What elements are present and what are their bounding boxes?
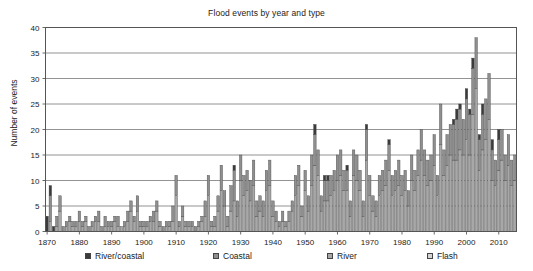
- legend-item[interactable]: Coastal: [213, 251, 252, 261]
- bar-segment: [220, 191, 223, 232]
- bar-segment: [72, 226, 75, 231]
- x-tick-label: 1900: [135, 238, 153, 247]
- bar-segment: [136, 211, 139, 231]
- bar-segment: [304, 191, 307, 232]
- bar-segment: [265, 191, 268, 232]
- bar-segment: [394, 191, 397, 232]
- bar-segment: [504, 155, 507, 181]
- bar-segment: [191, 221, 194, 226]
- bar-segment: [104, 226, 107, 231]
- bar-segment: [391, 175, 394, 195]
- y-tick-label: 15: [31, 151, 40, 160]
- bar-segment: [472, 68, 475, 114]
- bar-segment: [368, 196, 371, 232]
- legend-item[interactable]: Flash: [427, 251, 458, 261]
- bar-segment: [78, 221, 81, 231]
- bar-segment: [323, 201, 326, 232]
- x-tick-label: 1920: [200, 238, 218, 247]
- bar-segment: [127, 211, 130, 221]
- bar-segment: [301, 216, 304, 231]
- legend-swatch-icon: [85, 253, 91, 259]
- bar-segment: [88, 226, 91, 231]
- bar-segment: [172, 206, 175, 221]
- bar-segment: [397, 186, 400, 232]
- bar-segment: [456, 160, 459, 231]
- bar-segment: [143, 226, 146, 231]
- bar-segment: [201, 216, 204, 221]
- bar-segment: [388, 170, 391, 231]
- bar-segment: [133, 221, 136, 231]
- bar-segment: [459, 109, 462, 150]
- x-axis-ticks: 1870188018901900191019201930194019501960…: [38, 232, 508, 247]
- bar-segment: [97, 221, 100, 231]
- bar-segment: [420, 130, 423, 161]
- legend-swatch-icon: [327, 253, 333, 259]
- legend-item[interactable]: River/coastal: [85, 251, 144, 261]
- legend-label: River: [337, 251, 357, 261]
- bar-segment: [65, 226, 68, 231]
- bar-segment: [297, 165, 300, 185]
- bar-segment: [343, 170, 346, 190]
- bar-segment: [133, 216, 136, 221]
- x-tick-label: 2000: [458, 238, 476, 247]
- bar-segment: [459, 104, 462, 109]
- bar-segment: [127, 221, 130, 231]
- y-tick-label: 10: [31, 177, 40, 186]
- bar-segment: [114, 216, 117, 221]
- x-tick-label: 1880: [70, 238, 88, 247]
- bar-segment: [275, 211, 278, 221]
- bar-segment: [139, 226, 142, 231]
- bar-segment: [430, 181, 433, 232]
- bar-segment: [397, 160, 400, 186]
- bar-segment: [320, 196, 323, 211]
- bar-segment: [281, 211, 284, 221]
- bar-segment: [178, 221, 181, 226]
- bar-segment: [191, 226, 194, 231]
- bar-segment: [110, 226, 113, 231]
- bar-segment: [52, 226, 55, 231]
- bar-segment: [514, 155, 517, 181]
- bar-segment: [181, 206, 184, 216]
- bar-segment: [175, 196, 178, 232]
- bar-segment: [349, 216, 352, 231]
- bar-segment: [246, 170, 249, 190]
- bar-segment: [423, 175, 426, 231]
- bar-segment: [375, 201, 378, 216]
- bar-segment: [268, 160, 271, 186]
- bar-segment: [410, 155, 413, 181]
- bar-segment: [252, 186, 255, 232]
- bar-segment: [181, 216, 184, 231]
- bar-segment: [359, 191, 362, 232]
- bar-segment: [233, 201, 236, 232]
- bar-segment: [481, 114, 484, 150]
- bar-segment: [401, 175, 404, 195]
- bar-segment: [352, 150, 355, 176]
- bar-segment: [365, 130, 368, 161]
- bar-segment: [491, 181, 494, 232]
- bar-segment: [401, 196, 404, 232]
- bar-segment: [485, 99, 488, 140]
- bar-segment: [385, 186, 388, 232]
- bar-segment: [210, 221, 213, 226]
- legend-item[interactable]: River: [327, 251, 357, 261]
- bar-segment: [346, 170, 349, 190]
- bar-segment: [227, 226, 230, 231]
- bar-segment: [381, 191, 384, 232]
- bar-segment: [468, 155, 471, 232]
- bar-segment: [327, 181, 330, 201]
- bar-segment: [452, 160, 455, 231]
- bar-segment: [175, 175, 178, 195]
- legend-swatch-icon: [213, 253, 219, 259]
- bar-segment: [333, 191, 336, 232]
- bar-segment: [188, 226, 191, 231]
- bar-segment: [327, 201, 330, 232]
- bar-segment: [233, 165, 236, 170]
- bar-segment: [62, 226, 65, 231]
- bar-segment: [249, 201, 252, 232]
- bar-segment: [168, 221, 171, 226]
- bar-segment: [285, 226, 288, 231]
- bar-segment: [159, 226, 162, 231]
- bar-segment: [494, 160, 497, 186]
- bar-segment: [49, 196, 52, 222]
- bar-segment: [91, 221, 94, 226]
